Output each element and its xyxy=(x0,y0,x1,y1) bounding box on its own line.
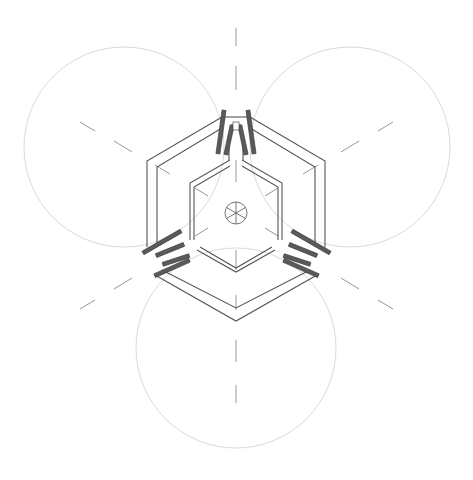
architectural-plan-drawing xyxy=(0,0,473,480)
door-set-bottom-left xyxy=(142,229,190,277)
swing-circles xyxy=(24,47,450,448)
axis-lines xyxy=(80,28,393,403)
center-wheel-icon xyxy=(225,202,247,224)
door-set-bottom-right xyxy=(283,229,331,277)
